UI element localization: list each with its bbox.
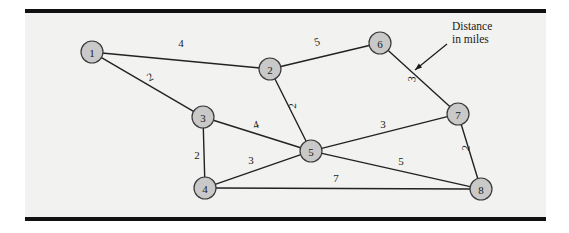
node-label-6: 6	[377, 38, 383, 49]
graph-edge	[387, 50, 450, 108]
graph-edge	[215, 188, 471, 189]
edge-weight-5-8: 5	[398, 156, 404, 167]
annotation-arrow-layer	[415, 44, 447, 70]
graph-edge	[101, 57, 195, 112]
graph-edge	[461, 124, 478, 180]
node-label-8: 8	[478, 184, 484, 195]
graph-figure: 12345678425242373532 Distance in miles	[0, 0, 569, 233]
edge-weight-3-4: 2	[194, 150, 200, 161]
edge-weight-5-7: 3	[380, 119, 386, 130]
edge-weight-1-2: 4	[178, 38, 184, 49]
graph-edge	[274, 78, 306, 142]
node-label-7: 7	[455, 109, 461, 120]
graph-edge	[214, 154, 301, 184]
distance-annotation-line2: in miles	[452, 33, 492, 46]
node-label-1: 1	[89, 47, 95, 58]
node-label-5: 5	[308, 146, 314, 157]
node-label-2: 2	[267, 64, 273, 75]
graph-edge	[321, 153, 471, 187]
distance-annotation-line1: Distance	[452, 20, 492, 33]
graph-edge	[102, 53, 260, 68]
edge-weight-2-5: 2	[287, 103, 298, 109]
graph-edge	[280, 45, 371, 66]
distance-annotation: Distance in miles	[452, 20, 492, 46]
node-label-4: 4	[202, 183, 208, 194]
edge-weight-4-5: 3	[248, 155, 254, 166]
graph-edge	[203, 127, 204, 178]
edge-weight-4-8: 7	[333, 173, 339, 184]
node-label-3: 3	[200, 112, 206, 123]
